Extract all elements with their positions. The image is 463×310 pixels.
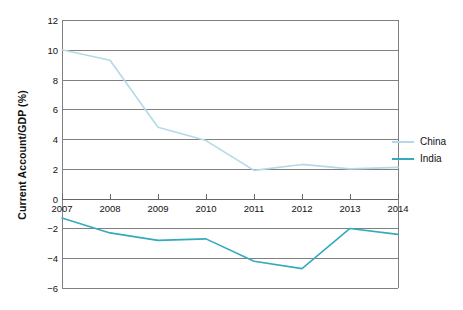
y-tick-label: 2 bbox=[28, 163, 58, 174]
x-tick-label: 2008 bbox=[99, 203, 120, 214]
x-tick-label: 2009 bbox=[147, 203, 168, 214]
legend-item-china[interactable]: China bbox=[392, 133, 462, 150]
x-tick-label: 2014 bbox=[387, 203, 408, 214]
x-tick-label: 2010 bbox=[195, 203, 216, 214]
x-tick-label: 2007 bbox=[51, 203, 72, 214]
plot-area bbox=[62, 20, 398, 288]
x-tick-label: 2011 bbox=[244, 203, 264, 214]
legend-swatch-icon bbox=[392, 158, 414, 160]
legend-label: China bbox=[420, 136, 446, 147]
series-line-india bbox=[62, 218, 398, 269]
legend-label: India bbox=[420, 153, 442, 164]
legend-item-india[interactable]: India bbox=[392, 150, 462, 167]
x-tick-mark bbox=[110, 194, 111, 199]
y-tick-label: 10 bbox=[28, 44, 58, 55]
x-tick-mark bbox=[206, 194, 207, 199]
y-tick-label: 12 bbox=[28, 15, 58, 26]
series-line-china bbox=[62, 50, 398, 171]
y-tick-label: 4 bbox=[28, 134, 58, 145]
y-tick-label: −6 bbox=[28, 283, 58, 294]
x-tick-mark bbox=[302, 194, 303, 199]
y-axis-tick-labels: 121086420−2−4−6 bbox=[24, 20, 58, 288]
x-tick-mark bbox=[62, 194, 63, 199]
line-chart: Current Account/GDP (%) 121086420−2−4−6 … bbox=[0, 0, 463, 310]
x-tick-mark bbox=[350, 194, 351, 199]
x-tick-label: 2012 bbox=[291, 203, 312, 214]
x-tick-mark bbox=[254, 194, 255, 199]
y-tick-label: −4 bbox=[28, 253, 58, 264]
x-tick-mark bbox=[158, 194, 159, 199]
y-tick-label: 8 bbox=[28, 74, 58, 85]
x-tick-mark bbox=[398, 194, 399, 199]
grid-line-neg6 bbox=[62, 288, 398, 289]
series-layer bbox=[62, 20, 398, 288]
chart-legend: ChinaIndia bbox=[392, 133, 462, 167]
legend-swatch-icon bbox=[392, 141, 414, 143]
y-tick-label: 6 bbox=[28, 104, 58, 115]
y-tick-label: −2 bbox=[28, 223, 58, 234]
x-tick-label: 2013 bbox=[339, 203, 360, 214]
